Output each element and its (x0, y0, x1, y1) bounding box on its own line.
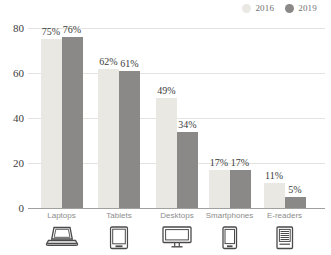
value-label: 11% (265, 170, 283, 181)
y-tick-label: 0 (0, 202, 24, 214)
value-label: 17% (210, 157, 228, 168)
y-tick-label: 40 (0, 112, 24, 124)
y-tick-label: 20 (0, 157, 24, 169)
category-label-smartphones: Smartphones (206, 211, 254, 220)
x-axis-line (28, 208, 325, 209)
bar-2019-smartphones (230, 170, 251, 208)
bar-2019-e-readers (285, 197, 306, 208)
bar-2016-e-readers (264, 183, 285, 208)
y-tick-label: 60 (0, 67, 24, 79)
smartphone-icon (222, 226, 238, 254)
plot-area: 02040608075%62%49%17%11%76%61%34%17%5%La… (0, 0, 331, 255)
value-label: 17% (231, 157, 249, 168)
value-label: 62% (99, 56, 117, 67)
bar-2019-laptops (62, 37, 83, 208)
ereader-icon (276, 226, 294, 254)
value-label: 34% (178, 119, 196, 130)
category-label-desktops: Desktops (160, 211, 193, 220)
bar-2016-smartphones (209, 170, 230, 208)
value-label: 5% (288, 184, 301, 195)
value-label: 75% (42, 26, 60, 37)
laptop-icon (45, 226, 79, 252)
bar-2016-laptops (41, 39, 62, 208)
value-label: 49% (157, 85, 175, 96)
value-label: 76% (63, 24, 81, 35)
bar-2019-desktops (177, 132, 198, 209)
y-tick-label: 80 (0, 22, 24, 34)
category-label-tablets: Tablets (106, 211, 131, 220)
bar-chart: 2016 2019 02040608075%62%49%17%11%76%61%… (0, 0, 331, 255)
value-label: 61% (120, 58, 138, 69)
category-label-laptops: Laptops (47, 211, 75, 220)
tablet-icon (110, 226, 129, 254)
bar-2019-tablets (119, 71, 140, 208)
bar-2016-desktops (156, 98, 177, 208)
category-label-e-readers: E-readers (267, 211, 302, 220)
desktop-icon (162, 226, 192, 253)
bar-2016-tablets (98, 69, 119, 209)
